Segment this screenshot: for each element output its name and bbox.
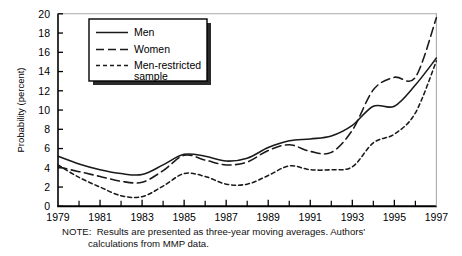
y-axis: 02468101214161820 [38,8,63,213]
y-tick-label: 4 [44,162,50,174]
x-tick-label: 1979 [46,211,70,223]
legend-label-women: Women [134,43,170,55]
legend-label-men-restricted-line2: sample [134,70,168,82]
y-tick-label: 12 [38,85,50,97]
y-tick-label: 18 [38,27,50,39]
y-tick-label: 2 [44,181,50,193]
x-tick-label: 1991 [299,211,323,223]
line-chart: 02468101214161820 1979198119831985198719… [0,0,462,256]
y-tick-label: 16 [38,46,50,58]
x-tick-label: 1981 [88,211,112,223]
x-tick-label: 1993 [341,211,365,223]
x-axis: 1979198119831985198719891991199319951997 [46,200,448,223]
x-tick-label: 1989 [257,211,281,223]
y-tick-label: 14 [38,65,50,77]
chart-legend: Men Women Men-restricted sample [89,19,211,85]
y-tick-label: 20 [38,8,50,20]
x-tick-label: 1985 [172,211,196,223]
figure-note-line-2: calculations from MMP data. [88,238,209,250]
figure-container: 02468101214161820 1979198119831985198719… [0,0,462,256]
y-axis-title: Probability (percent) [15,67,26,152]
x-tick-label: 1997 [425,211,449,223]
figure-note-line-1: NOTE: Results are presented as three-yea… [62,226,365,238]
x-tick-label: 1987 [214,211,238,223]
y-tick-label: 8 [44,123,50,135]
x-tick-label: 1995 [383,211,407,223]
legend-label-men: Men [134,26,155,38]
y-tick-label: 10 [38,104,50,116]
x-tick-label: 1983 [130,211,154,223]
y-tick-label: 6 [44,142,50,154]
